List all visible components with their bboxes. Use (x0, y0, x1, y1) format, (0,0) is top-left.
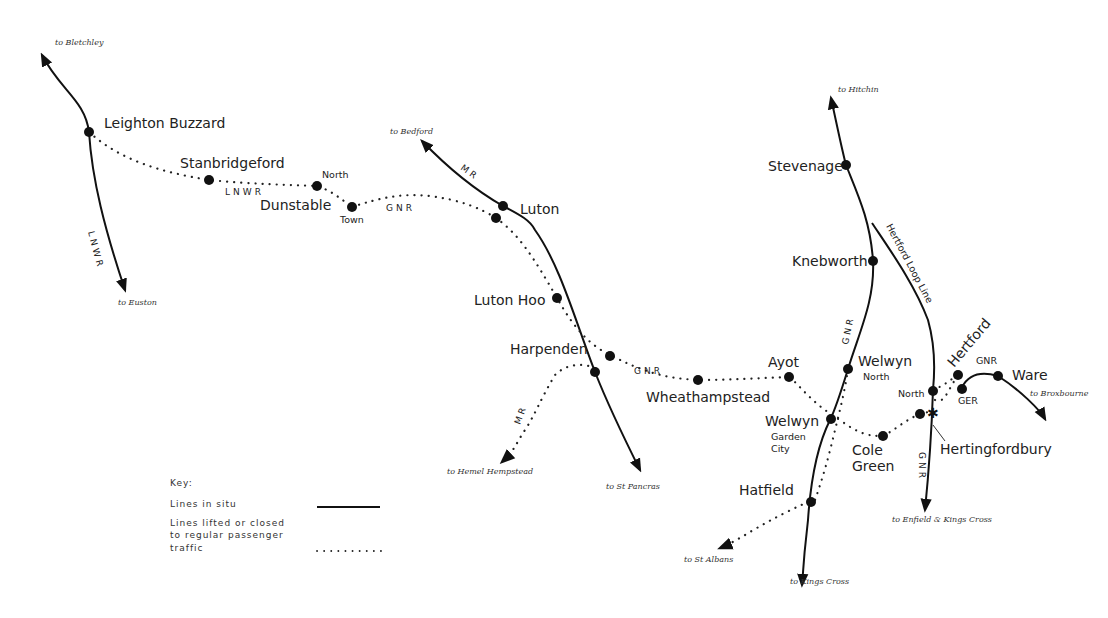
dest-bletchley: to Bletchley (55, 38, 104, 47)
station-knebworth[interactable] (868, 256, 878, 266)
station-cole-green[interactable] (878, 431, 888, 441)
label-ayot: Ayot (768, 354, 799, 370)
station-stanbridgeford[interactable] (204, 175, 214, 185)
station-luton-hoo[interactable] (552, 293, 562, 303)
label-gnr-main: GNR (840, 315, 856, 345)
label-leighton-buzzard: Leighton Buzzard (104, 115, 225, 131)
label-dunstable-north: North (322, 169, 349, 180)
dest-hitchin: to Hitchin (838, 85, 879, 94)
station-hertford-ger[interactable] (957, 384, 967, 394)
station-luton-mr[interactable] (498, 201, 508, 211)
label-harpenden: Harpenden (510, 341, 588, 357)
dest-enfield: to Enfield & Kings Cross (892, 515, 992, 524)
key-dotted-label-2: to regular passenger (170, 530, 284, 540)
lnwr-main-line (42, 55, 125, 290)
dest-broxbourne: to Broxbourne (1030, 389, 1089, 398)
st-albans-branch (720, 502, 808, 548)
label-knebworth: Knebworth (792, 253, 868, 269)
station-hertford-north[interactable] (928, 386, 938, 396)
station-hertford-gnr[interactable] (953, 370, 963, 380)
label-stevenage: Stevenage (768, 158, 843, 174)
dest-kings-cross: to Kings Cross (790, 577, 849, 586)
label-ware: Ware (1012, 367, 1048, 383)
junction-star-icon: ✱ (927, 405, 939, 421)
label-mr-hemel: MR (512, 403, 528, 425)
key-solid-label: Lines in situ (170, 499, 237, 509)
station-wheathampstead[interactable] (693, 375, 703, 385)
station-welwyn-garden-city[interactable] (826, 414, 836, 424)
label-hertford-north: North (898, 388, 925, 399)
label-hertingfordbury: Hertingfordbury (940, 441, 1052, 457)
label-welwyn-north: Welwyn (858, 353, 912, 369)
station-luton-gnr[interactable] (491, 213, 501, 223)
label-gnr-dunstable: GNR (386, 203, 415, 213)
station-harpenden-gnr[interactable] (605, 351, 615, 361)
label-lnwr-branch: LNWR (225, 187, 264, 197)
dest-hemel: to Hemel Hempstead (447, 467, 533, 476)
welwyn-gc-hatfield-link (815, 369, 848, 500)
key-dotted-label-1: Lines lifted or closed (170, 518, 285, 528)
station-ware[interactable] (993, 371, 1003, 381)
hertingfordbury-pointer (933, 425, 945, 441)
station-welwyn-north[interactable] (843, 364, 853, 374)
label-gnr-enfield: GNR (917, 452, 927, 481)
label-cole-green: Cole (852, 442, 883, 458)
station-ayot[interactable] (784, 372, 794, 382)
map-key: Key: Lines in situ Lines lifted or close… (170, 478, 382, 553)
label-gnr-harpenden: GNR (634, 366, 663, 376)
label-dunstable: Dunstable (260, 197, 331, 213)
label-dunstable-town: Town (339, 214, 364, 225)
label-hatfield: Hatfield (739, 482, 794, 498)
key-title: Key: (170, 478, 193, 488)
label-gnr-hertford: GNR (976, 355, 997, 366)
label-hertford-loop: Hertford Loop Line (884, 222, 935, 305)
label-luton-hoo: Luton Hoo (474, 292, 545, 308)
label-ger: GER (958, 395, 978, 406)
key-dotted-label-3: traffic (170, 543, 204, 553)
station-hertingfordbury[interactable] (915, 409, 925, 419)
station-harpenden-mr[interactable] (590, 367, 600, 377)
station-dunstable-north[interactable] (312, 181, 322, 191)
station-dunstable-town[interactable] (347, 202, 357, 212)
station-leighton-buzzard[interactable] (84, 127, 94, 137)
label-welwyn-gc: Welwyn (765, 413, 819, 429)
dest-euston: to Euston (118, 298, 157, 307)
station-hatfield[interactable] (806, 497, 816, 507)
dest-bedford: to Bedford (390, 127, 433, 136)
label-lnwr-main: LNWR (86, 230, 106, 270)
label-welwyn-gc-sub2: City (771, 443, 790, 454)
label-welwyn-gc-sub1: Garden (771, 431, 806, 442)
dest-st-albans: to St Albans (684, 555, 733, 564)
dest-st-pancras: to St Pancras (606, 482, 660, 491)
label-welwyn-north-sub: North (863, 371, 890, 382)
label-cole-green-sub: Green (852, 458, 894, 474)
label-luton: Luton (520, 201, 559, 217)
label-stanbridgeford: Stanbridgeford (180, 155, 285, 171)
label-wheathampstead: Wheathampstead (646, 389, 770, 405)
railway-map: ✱ Leighton Buzzard Stanbridgeford Dunsta… (0, 0, 1108, 618)
